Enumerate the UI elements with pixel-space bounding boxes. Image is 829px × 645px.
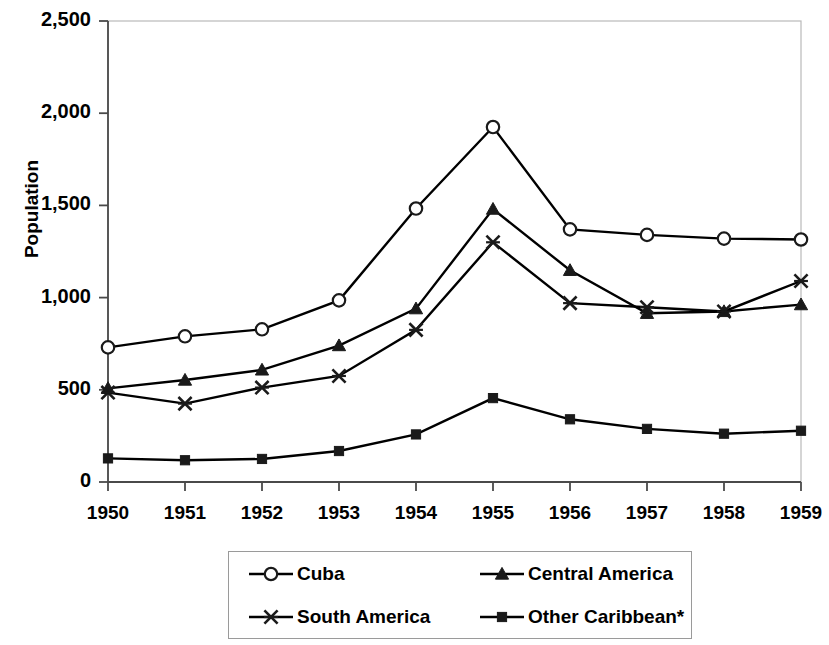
series-cuba [102, 121, 807, 354]
plot-frame [108, 21, 801, 482]
data-point-marker [332, 369, 346, 382]
data-point-marker [332, 339, 345, 351]
x-tick-label: 1955 [453, 502, 533, 524]
data-point-marker [264, 610, 278, 623]
x-tick-label: 1952 [222, 502, 302, 524]
data-point-marker [334, 446, 343, 455]
legend-item-label: Central America [528, 564, 673, 583]
data-point-marker [795, 233, 807, 245]
data-point-marker [497, 612, 506, 621]
x-tick-label: 1950 [68, 502, 148, 524]
legend-item-label: South America [297, 607, 430, 626]
chart-legend: CubaCentral AmericaSouth AmericaOther Ca… [228, 551, 692, 639]
data-point-marker [486, 236, 500, 249]
x-tick-label: 1954 [376, 502, 456, 524]
legend-item: South America [229, 607, 460, 626]
data-point-marker [411, 430, 420, 439]
series-line [108, 209, 801, 388]
legend-item: Other Caribbean* [460, 607, 691, 626]
data-point-marker [641, 229, 653, 241]
series-line [108, 127, 801, 347]
x-tick-label: 1959 [761, 502, 829, 524]
data-point-marker [179, 330, 191, 342]
data-point-marker [103, 454, 112, 463]
data-point-marker [257, 454, 266, 463]
data-point-marker [488, 393, 497, 402]
series-south-america [101, 236, 808, 411]
data-point-marker [102, 341, 114, 353]
data-point-marker [265, 567, 277, 579]
x-tick-label: 1958 [684, 502, 764, 524]
data-point-marker [409, 323, 423, 336]
series-line [108, 242, 801, 403]
y-tick-label: 1,000 [5, 285, 91, 308]
y-tick-label: 2,500 [5, 8, 91, 31]
data-point-marker [486, 202, 499, 214]
data-point-marker [256, 323, 268, 335]
data-point-marker [565, 415, 574, 424]
legend-marker-filled-triangle-icon [478, 565, 526, 583]
data-point-marker [410, 202, 422, 214]
data-point-marker [719, 429, 728, 438]
series-other-caribbean [103, 393, 805, 464]
x-tick-label: 1957 [607, 502, 687, 524]
x-tick-label: 1953 [299, 502, 379, 524]
legend-marker-filled-square-icon [478, 608, 526, 626]
y-tick-label: 2,000 [5, 100, 91, 123]
data-point-marker [718, 232, 730, 244]
data-point-marker [487, 121, 499, 133]
series-line [108, 398, 801, 460]
y-tick-label: 0 [5, 469, 91, 492]
y-tick-label: 1,500 [5, 192, 91, 215]
legend-item-label: Other Caribbean* [528, 607, 684, 626]
data-point-marker [178, 397, 192, 410]
data-point-marker [180, 456, 189, 465]
legend-item: Central America [460, 564, 691, 583]
legend-item-label: Cuba [297, 564, 345, 583]
data-point-marker [796, 426, 805, 435]
x-tick-label: 1956 [530, 502, 610, 524]
plot-area-svg [0, 0, 829, 645]
legend-marker-open-circle-icon [247, 565, 295, 583]
data-point-marker [642, 424, 651, 433]
population-line-chart: Population 05001,0001,5002,0002,500 1950… [0, 0, 829, 645]
series-central-america [101, 202, 807, 393]
y-tick-label: 500 [5, 377, 91, 400]
legend-item: Cuba [229, 564, 460, 583]
data-point-marker [333, 294, 345, 306]
data-point-marker [563, 297, 577, 310]
data-point-marker [255, 381, 269, 394]
legend-marker-asterisk-x-icon [247, 608, 295, 626]
x-tick-label: 1951 [145, 502, 225, 524]
data-point-marker [564, 223, 576, 235]
